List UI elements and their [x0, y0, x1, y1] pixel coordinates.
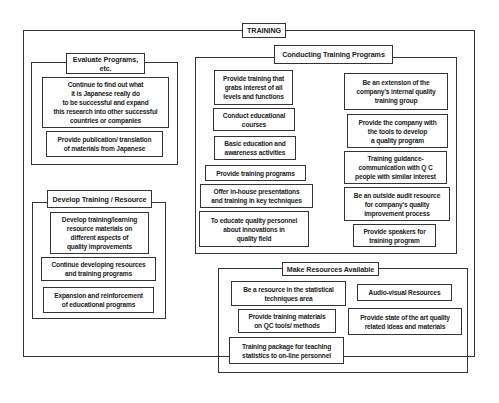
- resources-item-audio-visual: Audio-visual Resources: [357, 284, 452, 301]
- conducting-item-in-house: Offer in-house presentations and trainin…: [200, 184, 313, 208]
- resources-item-statistical: Be a resource in the statistical techniq…: [231, 281, 346, 306]
- conducting-item-grabs-interest: Provide training that grabs interest of …: [214, 70, 293, 105]
- conducting-item-provide-training: Provide training programs: [205, 165, 306, 181]
- conducting-item-extension: Be an extension of the company's interna…: [344, 73, 448, 110]
- make-resources-title-text: Make Resources Available: [287, 265, 374, 274]
- resources-item-state-of-art: Provide state of the art quality related…: [348, 308, 462, 335]
- conducting-item-tools: Provide the company with the tools to de…: [347, 114, 448, 148]
- conducting-training-title-text: Conducting Training Programs: [282, 50, 385, 59]
- conducting-item-basic-education: Basic education and awareness activities: [214, 136, 296, 160]
- resources-item-qc-tools: Provide training materials on QC tools/ …: [238, 309, 336, 333]
- develop-item-expansion: Expansion and reinforcement of education…: [43, 287, 154, 313]
- training-title: TRAINING: [242, 23, 286, 38]
- make-resources-title: Make Resources Available: [282, 262, 379, 276]
- conducting-item-guidance: Training guidance- communication with Q …: [344, 151, 447, 184]
- resources-item-training-package: Training package for teaching statistics…: [229, 337, 344, 364]
- develop-item-learning-materials: Develop training/learning resource mater…: [50, 212, 149, 254]
- evaluate-programs-title-text: Evaluate Programs, etc.: [73, 55, 138, 73]
- conducting-item-educate-personnel: To educate quality personnel about innov…: [199, 211, 309, 247]
- develop-training-title: Develop Training / Resource: [47, 190, 152, 208]
- develop-item-continue-developing: Continue developing resources and traini…: [41, 257, 156, 281]
- evaluate-item-japanese-research: Continue to find out what it is Japanese…: [42, 77, 169, 128]
- evaluate-programs-title: Evaluate Programs, etc.: [66, 53, 145, 74]
- conducting-training-title: Conducting Training Programs: [274, 45, 393, 64]
- conducting-item-speakers: Provide speakers for training program: [353, 224, 436, 247]
- evaluate-item-publication: Provide publication/ translation of mate…: [46, 131, 163, 157]
- conducting-item-audit: Be an outside audit resource for company…: [344, 187, 450, 221]
- develop-training-title-text: Develop Training / Resource: [53, 195, 147, 204]
- training-title-text: TRAINING: [247, 26, 281, 35]
- conducting-item-educational-courses: Conduct educational courses: [213, 108, 295, 131]
